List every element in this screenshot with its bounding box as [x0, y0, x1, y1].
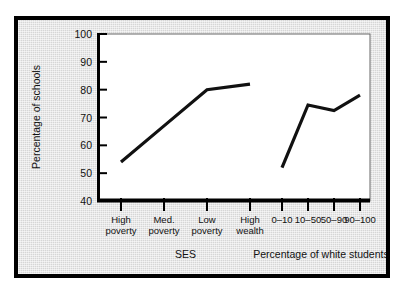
x-category-label: High	[111, 214, 131, 225]
panel-title: SES	[175, 248, 196, 260]
x-axis-category-labels: HighpovertyMed.povertyLowpovertyHighweal…	[105, 214, 375, 236]
y-axis-title: Percentage of schools	[30, 65, 42, 169]
x-category-label: 10–50	[295, 214, 321, 225]
x-category-label: 90–100	[344, 214, 376, 225]
x-category-label: Med.	[153, 214, 174, 225]
panel-title: Percentage of white students	[253, 248, 386, 260]
y-tick-label: 90	[80, 56, 92, 68]
chart-canvas: 405060708090100 HighpovertyMed.povertyLo…	[18, 20, 386, 274]
chart-figure: 405060708090100 HighpovertyMed.povertyLo…	[14, 16, 390, 278]
x-category-label: poverty	[105, 225, 136, 236]
y-tick-label: 100	[74, 28, 92, 40]
x-category-label: Low	[198, 214, 216, 225]
y-tick-label: 40	[80, 195, 92, 207]
x-category-label: 0–10	[271, 214, 292, 225]
panel-titles: SESPercentage of white students	[175, 248, 386, 260]
x-category-label: poverty	[148, 225, 179, 236]
y-tick-label: 50	[80, 167, 92, 179]
plot-area-background	[98, 34, 370, 201]
y-tick-label: 80	[80, 84, 92, 96]
x-category-label: wealth	[235, 225, 263, 236]
y-tick-label: 60	[80, 139, 92, 151]
y-tick-label: 70	[80, 112, 92, 124]
x-category-label: poverty	[191, 225, 222, 236]
x-category-label: High	[240, 214, 260, 225]
